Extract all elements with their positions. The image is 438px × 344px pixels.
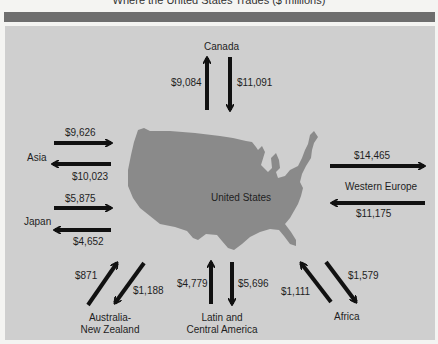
australia-nz-label: Australia- New Zealand xyxy=(60,312,160,336)
australia-exports: $871 xyxy=(75,270,97,281)
canada-exports: $9,084 xyxy=(171,77,202,88)
asia-exports: $9,626 xyxy=(65,127,96,138)
latin-america-exports: $4,779 xyxy=(177,278,208,289)
japan-imports: $4,652 xyxy=(73,236,104,247)
western-europe-exports: $14,465 xyxy=(354,150,390,161)
us-map-shape xyxy=(128,128,318,250)
japan-label: Japan xyxy=(24,216,51,227)
western-europe-imports: $11,175 xyxy=(356,208,391,219)
canada-label: Canada xyxy=(204,41,239,52)
africa-imports: $1,579 xyxy=(348,270,379,281)
asia-imports: $10,023 xyxy=(72,171,108,182)
canada-imports: $11,091 xyxy=(237,77,272,88)
africa-exports: $1,111 xyxy=(281,286,310,297)
asia-label: Asia xyxy=(27,152,46,163)
western-europe-label: Western Europe xyxy=(345,181,417,192)
latin-america-imports: $5,696 xyxy=(238,278,269,289)
japan-exports: $5,875 xyxy=(65,193,96,204)
africa-label: Africa xyxy=(334,311,360,322)
latin-america-label: Latin and Central America xyxy=(172,312,272,336)
us-label: United States xyxy=(211,192,271,203)
australia-imports: $1,188 xyxy=(133,285,164,296)
